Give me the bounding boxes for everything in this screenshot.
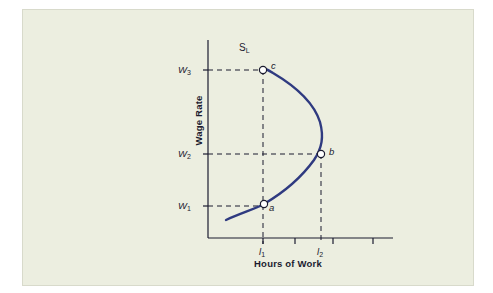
y-tick-label-w3: W3 <box>178 64 191 75</box>
point-label-c: c <box>271 60 276 71</box>
curve-label-sl: SL <box>239 42 250 53</box>
point-label-b: b <box>329 146 334 157</box>
x-tick-label-l2: l2 <box>317 246 323 257</box>
data-point-c <box>259 66 266 73</box>
labor-supply-curve <box>226 68 322 220</box>
y-axis-label: Wage Rate <box>193 81 204 161</box>
x-tick-label-l1: l1 <box>259 246 265 257</box>
x-axis-label: Hours of Work <box>208 258 368 269</box>
figure-panel: Wage Rate Hours of Work W1 W2 W3 l1 l2 a… <box>22 9 474 286</box>
data-point-a <box>260 200 267 207</box>
point-label-a: a <box>269 202 274 213</box>
data-point-b <box>317 150 324 157</box>
y-tick-label-w1: W1 <box>178 200 191 211</box>
y-tick-label-w2: W2 <box>178 148 191 159</box>
